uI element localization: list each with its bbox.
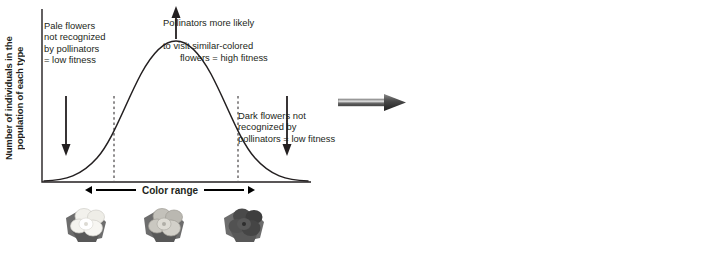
range-bar-right: [204, 189, 244, 191]
medium-flower-petals-icon: [149, 209, 183, 237]
annotation-dark-flowers: Dark flowers not recognized by pollinato…: [238, 110, 360, 144]
color-range-scale-left: Color range: [85, 183, 255, 197]
dark-flower-image-left: [220, 200, 278, 246]
x-axis-label-left: Color range: [140, 185, 200, 196]
arrow-right-icon: [248, 186, 255, 194]
pale-flower-image-left: [62, 200, 120, 246]
annotation-high-fitness-line2: to visit similar-colored: [163, 40, 253, 51]
panel-after-selection: Number of individuals in the population …: [380, 0, 703, 258]
arrow-left-icon: [85, 186, 92, 194]
annotation-high-fitness-line3: flowers = high fitness: [163, 52, 313, 63]
medium-flower-image-left: [140, 200, 198, 246]
annotation-high-fitness: Pollinators more likely to visit similar…: [163, 6, 313, 74]
y-axis-label-left: Number of individuals in the population …: [3, 12, 25, 184]
annotation-pale-flowers: Pale flowers not recognized by pollinato…: [44, 20, 148, 66]
down-arrow-pale: [62, 96, 71, 156]
annotation-high-fitness-line1: Pollinators more likely: [163, 17, 254, 28]
range-bar-left: [96, 189, 136, 191]
pale-flower-petals-icon: [71, 209, 105, 237]
panel-before-selection: Number of individuals in the population …: [0, 0, 360, 258]
